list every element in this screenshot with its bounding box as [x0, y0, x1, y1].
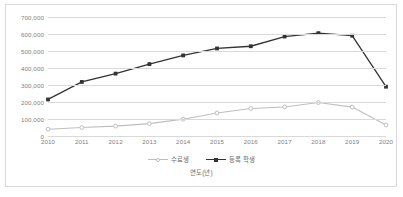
- data-point-marker: [283, 105, 287, 109]
- x-axis-tick-label: 2012: [109, 138, 123, 145]
- series-line: [48, 103, 386, 130]
- x-axis-tick-label: 2017: [278, 138, 292, 145]
- data-point-marker: [215, 47, 219, 51]
- x-axis-title: 연도(년): [0, 168, 403, 177]
- data-point-marker: [114, 124, 118, 128]
- legend-square-marker-icon: [206, 156, 226, 163]
- y-axis-tick-label: 700,000: [21, 14, 44, 21]
- data-point-marker: [114, 72, 118, 76]
- legend-circle-marker-icon: [148, 156, 168, 163]
- gridline: [48, 102, 386, 103]
- legend-item[interactable]: 수료생: [148, 155, 189, 164]
- gridline: [48, 17, 386, 18]
- legend-label: 등록 학생: [229, 155, 255, 164]
- gridline: [48, 51, 386, 52]
- data-point-marker: [80, 126, 84, 130]
- y-axis-tick-label: 200,000: [21, 99, 44, 106]
- y-axis-tick-label: 600,000: [21, 31, 44, 38]
- x-axis-tick-label: 2010: [41, 138, 55, 145]
- x-axis-tick-label: 2018: [311, 138, 325, 145]
- x-axis-tick-label: 2015: [210, 138, 224, 145]
- legend-item[interactable]: 등록 학생: [206, 155, 255, 164]
- data-point-marker: [148, 62, 152, 66]
- data-point-marker: [181, 54, 185, 58]
- data-point-marker: [80, 80, 84, 84]
- data-point-marker: [249, 44, 253, 48]
- x-axis-tick-label: 2013: [142, 138, 156, 145]
- data-point-marker: [350, 105, 354, 109]
- data-point-marker: [384, 123, 388, 127]
- x-axis-tick-label: 2016: [244, 138, 258, 145]
- data-point-marker: [46, 127, 50, 131]
- x-axis-tick-label: 2020: [379, 138, 393, 145]
- data-point-marker: [249, 107, 253, 111]
- gridline: [48, 119, 386, 120]
- plot-area: [48, 17, 386, 136]
- x-axis-tick-label: 2019: [345, 138, 359, 145]
- gridline: [48, 136, 386, 137]
- data-point-marker: [283, 35, 287, 39]
- gridline: [48, 85, 386, 86]
- y-axis-tick-label: 500,000: [21, 48, 44, 55]
- series-line: [48, 33, 386, 99]
- legend-label: 수료생: [171, 155, 189, 164]
- y-axis-tick-labels: 0100,000200,000300,000400,000500,000600,…: [0, 17, 44, 136]
- chart-legend: 수료생등록 학생: [0, 155, 403, 164]
- y-axis-tick-label: 100,000: [21, 116, 44, 123]
- gridline: [48, 34, 386, 35]
- x-axis-tick-labels: 2010201120122013201420152016201720182019…: [48, 138, 386, 150]
- data-point-marker: [46, 98, 50, 102]
- x-axis-tick-label: 2014: [176, 138, 190, 145]
- x-axis-tick-label: 2011: [75, 138, 89, 145]
- gridline: [48, 68, 386, 69]
- y-axis-tick-label: 300,000: [21, 82, 44, 89]
- data-point-marker: [148, 122, 152, 126]
- chart-container: 0100,000200,000300,000400,000500,000600,…: [0, 0, 403, 197]
- y-axis-tick-label: 400,000: [21, 65, 44, 72]
- data-point-marker: [215, 111, 219, 115]
